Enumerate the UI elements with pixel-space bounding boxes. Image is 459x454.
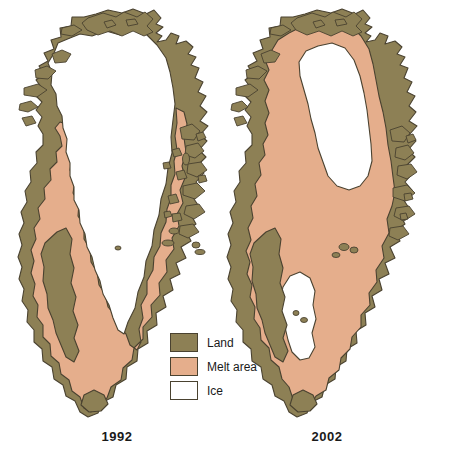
legend-swatch-ice bbox=[170, 381, 198, 400]
map-caption-2002: 2002 bbox=[287, 429, 367, 444]
legend-item-ice: Ice bbox=[170, 381, 280, 400]
legend-item-melt-area: Melt area bbox=[170, 357, 280, 376]
legend-label-land: Land bbox=[207, 336, 234, 350]
legend-item-land: Land bbox=[170, 333, 280, 352]
greenland-melt-comparison-figure: .land { fill: #8D8055; stroke: #4a4230; … bbox=[0, 0, 459, 454]
legend-swatch-land bbox=[170, 333, 198, 352]
legend-swatch-melt-area bbox=[170, 357, 198, 376]
legend-label-ice: Ice bbox=[207, 384, 223, 398]
legend-label-melt-area: Melt area bbox=[207, 360, 257, 374]
map-legend: Land Melt area Ice bbox=[170, 333, 280, 405]
map-caption-1992: 1992 bbox=[77, 429, 157, 444]
